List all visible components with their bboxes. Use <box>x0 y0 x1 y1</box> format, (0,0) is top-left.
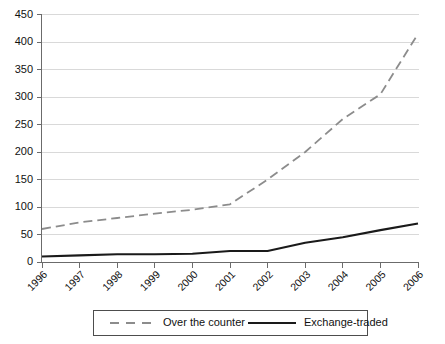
chart-canvas: 050100150200250300350400450 199619971998… <box>0 0 445 344</box>
x-tick-label: 2006 <box>400 268 425 293</box>
x-tick-label: 2001 <box>212 268 237 293</box>
line-chart: 050100150200250300350400450 199619971998… <box>0 0 445 344</box>
y-tick-label: 450 <box>15 8 33 20</box>
y-tick-label: 0 <box>27 255 33 267</box>
legend-label-exchange-traded: Exchange-traded <box>304 316 388 328</box>
x-tick-group: 1996199719981999200020012002200320042005… <box>24 262 425 293</box>
x-axis: 1996199719981999200020012002200320042005… <box>24 262 425 293</box>
legend-label-over-the-counter: Over the counter <box>163 316 245 328</box>
y-tick-label: 350 <box>15 63 33 75</box>
x-tick-label: 1998 <box>100 268 125 293</box>
gridlines <box>42 15 419 235</box>
x-tick-label: 2005 <box>363 268 388 293</box>
y-tick-label: 150 <box>15 173 33 185</box>
series-line-over-the-counter <box>42 34 418 229</box>
x-tick-label: 2002 <box>250 268 275 293</box>
x-tick-label: 1996 <box>24 268 49 293</box>
x-tick-label: 2000 <box>175 268 200 293</box>
y-tick-label: 200 <box>15 145 33 157</box>
x-tick-label: 1997 <box>62 268 87 293</box>
y-tick-group: 050100150200250300350400450 <box>15 8 42 268</box>
y-tick-label: 50 <box>21 228 33 240</box>
legend: Over the counter Exchange-traded <box>94 311 388 336</box>
y-tick-label: 400 <box>15 35 33 47</box>
y-tick-label: 100 <box>15 200 33 212</box>
series-group <box>42 34 418 257</box>
y-tick-label: 300 <box>15 90 33 102</box>
y-axis: 050100150200250300350400450 <box>15 8 42 268</box>
x-tick-label: 1999 <box>137 268 162 293</box>
x-tick-label: 2004 <box>325 268 350 293</box>
x-tick-label: 2003 <box>288 268 313 293</box>
series-line-exchange-traded <box>42 224 418 257</box>
y-tick-label: 250 <box>15 118 33 130</box>
